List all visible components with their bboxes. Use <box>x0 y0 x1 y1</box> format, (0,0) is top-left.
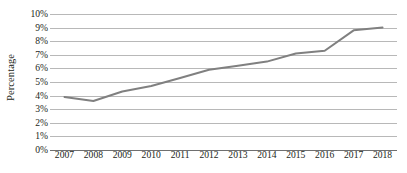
x-axis-tick-label: 2014 <box>257 150 276 160</box>
y-axis-tick-labels: 0%1%2%3%4%5%6%7%8%9%10% <box>18 14 48 150</box>
y-axis-tick-label: 4% <box>18 91 48 101</box>
y-axis-tick-label: 2% <box>18 118 48 128</box>
y-axis-tick-label: 7% <box>18 50 48 60</box>
y-axis-title-label: Percentage <box>6 54 17 101</box>
x-axis-tick-label: 2008 <box>84 150 103 160</box>
y-axis-tick-label: 6% <box>18 64 48 74</box>
series-polyline <box>64 28 382 101</box>
line-chart-figure: Percentage 0%1%2%3%4%5%6%7%8%9%10% 20072… <box>0 0 407 173</box>
y-axis-tick-label: 5% <box>18 77 48 87</box>
y-axis-tick-label: 0% <box>18 145 48 155</box>
x-axis-tick-label: 2016 <box>315 150 334 160</box>
x-axis-tick-label: 2011 <box>171 150 190 160</box>
y-axis-tick-label: 8% <box>18 36 48 46</box>
x-axis-tick-label: 2009 <box>113 150 132 160</box>
x-axis-tick-label: 2015 <box>286 150 305 160</box>
x-axis-tick-label: 2013 <box>228 150 247 160</box>
y-axis-tick-label: 9% <box>18 23 48 33</box>
x-axis-tick-label: 2010 <box>142 150 161 160</box>
x-axis-tick-label: 2007 <box>55 150 74 160</box>
y-axis-tick-label: 3% <box>18 104 48 114</box>
x-axis-tick-label: 2017 <box>344 150 363 160</box>
y-axis-tick-label: 10% <box>18 9 48 19</box>
y-axis-tick-label: 1% <box>18 132 48 142</box>
series-line-percentage <box>50 14 397 150</box>
x-axis-tick-labels: 2007200820092010201120122013201420152016… <box>50 150 397 166</box>
x-axis-tick-label: 2012 <box>199 150 218 160</box>
x-axis-tick-label: 2018 <box>373 150 392 160</box>
plot-area <box>50 14 397 150</box>
